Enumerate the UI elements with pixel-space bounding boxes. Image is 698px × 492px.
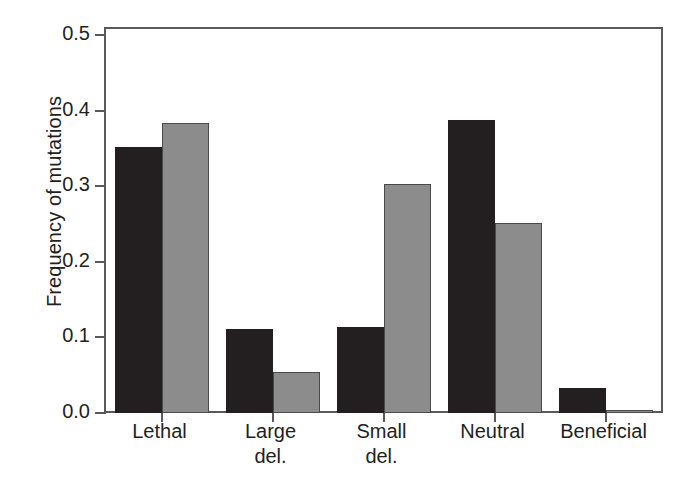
bar-light-2 xyxy=(384,184,431,413)
bar-light-4 xyxy=(606,410,653,413)
x-axis-tick-labels: LethalLargedel.Smalldel.NeutralBeneficia… xyxy=(104,419,663,485)
x-axis-tick-label-line: del. xyxy=(312,444,452,469)
bar-light-0 xyxy=(162,123,209,413)
bar-light-1 xyxy=(273,372,320,413)
y-axis-tick-label: 0.0 xyxy=(38,400,90,423)
bar-light-3 xyxy=(495,223,542,413)
x-axis-tick-label: Beneficial xyxy=(534,419,674,444)
y-axis-tick-label: 0.4 xyxy=(38,97,90,120)
bar-dark-0 xyxy=(115,147,162,413)
y-axis-tick xyxy=(95,185,106,187)
bar-dark-1 xyxy=(226,329,273,413)
bar-dark-3 xyxy=(448,120,495,413)
y-axis-tick xyxy=(95,34,106,36)
y-axis-tick-label: 0.5 xyxy=(38,22,90,45)
plot-inner xyxy=(106,29,661,411)
x-axis-tick-label-line: Beneficial xyxy=(534,419,674,444)
bar-dark-4 xyxy=(559,388,606,413)
plot-area xyxy=(104,27,663,413)
y-axis-tick xyxy=(95,336,106,338)
y-axis-tick-label: 0.2 xyxy=(38,248,90,271)
y-axis-tick xyxy=(95,110,106,112)
y-axis-tick-labels: 0.00.10.20.30.40.5 xyxy=(34,0,90,492)
bar-dark-2 xyxy=(337,327,384,413)
y-axis-tick xyxy=(95,412,106,414)
y-axis-tick-label: 0.1 xyxy=(38,324,90,347)
y-axis-tick-label: 0.3 xyxy=(38,173,90,196)
bar-chart-figure: Frequency of mutations 0.00.10.20.30.40.… xyxy=(0,0,698,492)
y-axis-tick xyxy=(95,261,106,263)
